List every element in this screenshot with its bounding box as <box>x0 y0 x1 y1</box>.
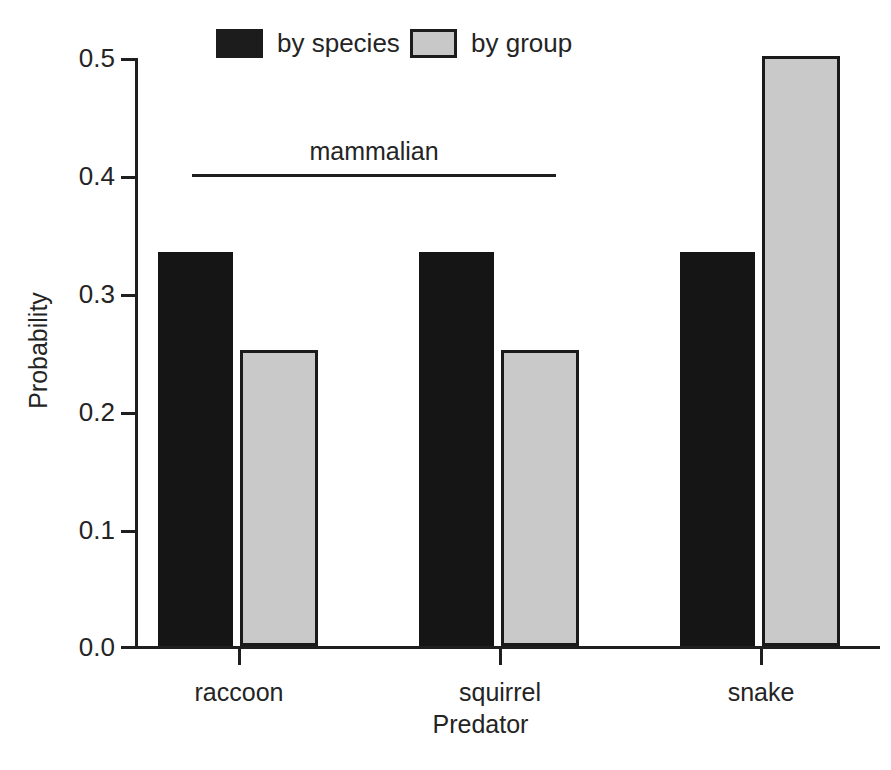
annotation-label-mammalian: mammalian <box>309 139 438 164</box>
y-tick-label-0.4: 0.4 <box>79 163 115 189</box>
y-axis-spine <box>135 58 138 648</box>
y-tick-label-0.3: 0.3 <box>79 281 115 307</box>
x-tick-label-raccoon: raccoon <box>195 680 284 705</box>
y-tick-0.1 <box>121 530 135 533</box>
y-tick-label-0.5: 0.5 <box>79 45 115 71</box>
legend-swatch-icon-by-species <box>216 29 263 58</box>
y-tick-label-0.1: 0.1 <box>79 517 115 543</box>
legend-label-by-species: by species <box>277 30 400 56</box>
bar-squirrel-by-species <box>419 252 494 646</box>
plot-area: 0.5 0.4 0.3 0.2 0.1 0.0 raccoon squirrel… <box>135 58 880 648</box>
x-axis-spine <box>135 646 880 649</box>
y-tick-0.5 <box>121 58 135 61</box>
x-axis-title-text: Predator <box>433 710 529 738</box>
y-tick-label-0.0: 0.0 <box>79 634 115 660</box>
annotation-bracket-mammalian <box>192 174 556 177</box>
bar-snake-by-species <box>680 252 755 646</box>
x-tick-snake <box>760 649 763 665</box>
x-tick-squirrel <box>499 649 502 665</box>
y-tick-0.2 <box>121 412 135 415</box>
y-tick-0.0 <box>121 646 135 649</box>
y-axis-title-text: Probability <box>24 292 53 409</box>
bar-snake-by-group <box>762 56 840 646</box>
x-tick-label-squirrel: squirrel <box>459 680 541 705</box>
y-tick-0.3 <box>121 294 135 297</box>
x-tick-raccoon <box>238 649 241 665</box>
y-tick-0.4 <box>121 176 135 179</box>
x-tick-label-snake: snake <box>728 680 795 705</box>
x-axis-title: Predator <box>0 710 891 739</box>
bar-chart-figure: by species by group Probability 0.5 0.4 … <box>0 0 891 770</box>
legend-label-by-group: by group <box>471 30 572 56</box>
bar-raccoon-by-species <box>158 252 233 646</box>
bar-squirrel-by-group <box>501 350 579 646</box>
y-axis-title: Probability <box>18 0 58 700</box>
bar-raccoon-by-group <box>240 350 318 646</box>
legend-swatch-icon-by-group <box>410 29 457 58</box>
y-tick-label-0.2: 0.2 <box>79 399 115 425</box>
